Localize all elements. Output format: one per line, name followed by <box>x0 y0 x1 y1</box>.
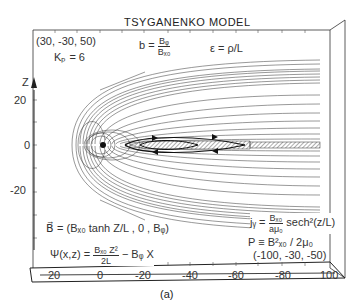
x-tick-neg60: -60 <box>228 269 244 281</box>
z-tick-neg20: -20 <box>10 184 26 196</box>
z-tick-0: 0 <box>24 139 30 151</box>
equation-pressure: P ≡ B²ₓ₀ / 2μ₀ <box>248 236 313 248</box>
x-tick-100: 100 <box>320 269 338 281</box>
x-tick-neg20: -20 <box>135 269 151 281</box>
z-axis-arrow <box>31 77 37 250</box>
field-arrow-icon <box>152 135 158 141</box>
x-tick-20: 20 <box>48 269 60 281</box>
figure-caption: (a) <box>160 288 173 300</box>
equation-jy: jᵧ = Bₓ₀aμ₀ sech²(z/L) <box>250 213 335 234</box>
equation-b: b = BᵩBₓ₀ <box>139 36 170 57</box>
z-tick-20: 20 <box>14 94 26 106</box>
x-tick-neg80: -80 <box>275 269 291 281</box>
earth-icon <box>100 142 106 148</box>
field-arrow-icon <box>152 149 158 155</box>
equation-field-vector: B⃗ = (Bₓ₀ tanh Z/L , 0 , Bᵩ) <box>46 222 169 235</box>
x-tick-neg40: -40 <box>182 269 198 281</box>
field-arrow-icon <box>212 134 218 140</box>
figure-title: TSYGANENKO MODEL <box>124 16 251 28</box>
current-sheet <box>125 134 320 155</box>
x-tick-0: 0 <box>97 269 103 281</box>
kp-label: Kₚ = 6 <box>54 51 85 64</box>
equation-epsilon: ε = ρ/L <box>210 42 243 54</box>
view-point-back: (-100, -30, -50) <box>253 249 326 261</box>
view-point-front: (30, -30, 50) <box>36 35 96 47</box>
z-axis-label: Z <box>22 76 29 88</box>
equation-psi: Ψ(x,z) = Bₓ₀ Z²2L − Bᵩ X <box>50 245 154 266</box>
